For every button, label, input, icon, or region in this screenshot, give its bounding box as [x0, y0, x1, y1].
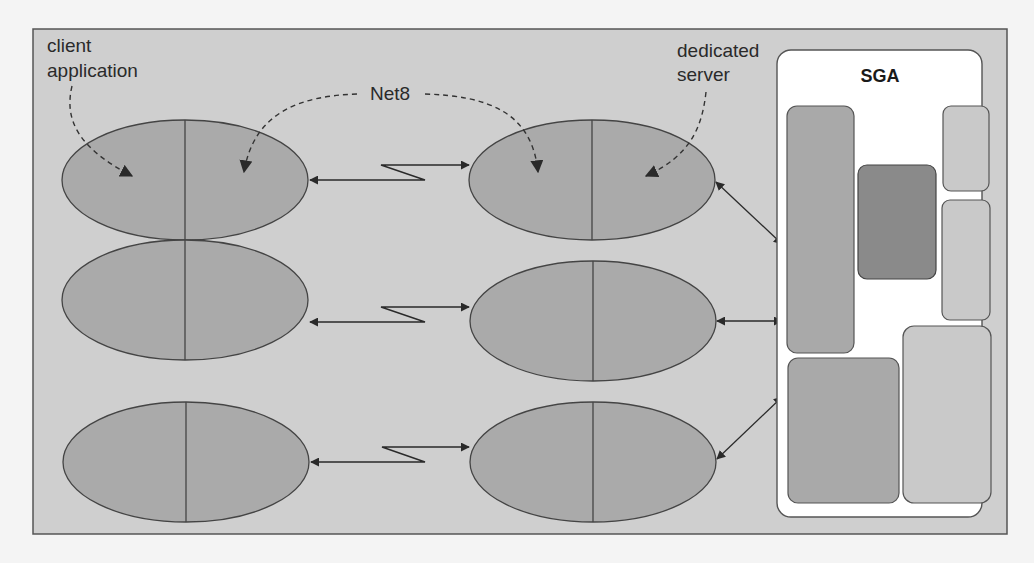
client-process-3	[63, 402, 309, 522]
svg-text:application: application	[47, 60, 138, 81]
client-process-2	[62, 240, 308, 360]
svg-text:client: client	[47, 35, 92, 56]
oracle-dedicated-server-diagram: client application Net8 dedicated server	[0, 0, 1034, 563]
net8-label: Net8	[370, 83, 410, 104]
svg-text:dedicated: dedicated	[677, 40, 759, 61]
sga-block-dark-center	[858, 165, 936, 279]
sga-block-bottom-right	[903, 326, 991, 503]
sga-container: SGA	[777, 50, 991, 517]
sga-block-mid-right	[942, 200, 990, 320]
svg-text:server: server	[677, 64, 730, 85]
sga-block-bottom-left	[788, 358, 899, 503]
server-process-1	[469, 120, 715, 240]
server-process-3	[470, 402, 716, 522]
client-process-1	[62, 120, 308, 240]
server-process-2	[470, 261, 716, 381]
sga-block-tall-left	[787, 106, 854, 353]
sga-title: SGA	[860, 66, 899, 86]
sga-block-small-top-right	[943, 106, 989, 191]
